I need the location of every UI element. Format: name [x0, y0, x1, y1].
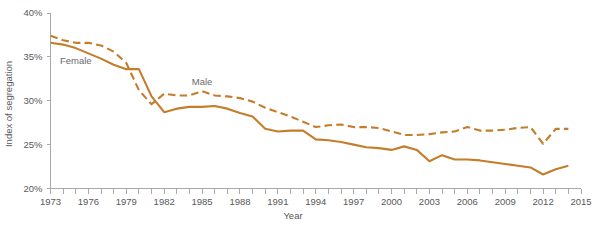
chart-container: 20%25%30%35%40% 197319761979198219851988… [0, 0, 592, 227]
data-series-group [51, 36, 569, 175]
series-label-male: Male [192, 76, 213, 87]
x-axis-tick-label: 1994 [305, 196, 326, 207]
x-axis-tick-label: 1988 [229, 196, 250, 207]
x-axis-tick-label: 2009 [495, 196, 516, 207]
segregation-index-line-chart: 20%25%30%35%40% 197319761979198219851988… [0, 0, 592, 227]
x-axis-tick-label: 1997 [343, 196, 364, 207]
y-axis-tick-label: 35% [23, 51, 43, 62]
x-axis-tick-label: 1976 [78, 196, 99, 207]
x-axis-tick-label: 1979 [116, 196, 137, 207]
x-axis-title: Year [283, 210, 302, 221]
x-axis: 1973197619791982198519881991199419972000… [40, 189, 592, 207]
series-line-female [51, 43, 569, 175]
series-label-female: Female [60, 55, 92, 66]
y-axis-tick-label: 20% [23, 183, 43, 194]
x-axis-tick-label: 1982 [154, 196, 175, 207]
y-axis: 20%25%30%35%40% [23, 7, 50, 194]
x-axis-tick-label: 2012 [533, 196, 554, 207]
x-axis-tick-label: 2003 [419, 196, 440, 207]
x-axis-tick-label: 1991 [267, 196, 288, 207]
series-line-male [51, 36, 569, 144]
y-axis-tick-label: 40% [23, 7, 43, 18]
x-axis-tick-label: 2000 [381, 196, 402, 207]
x-axis-tick-label: 1973 [40, 196, 61, 207]
series-annotations: MaleFemale [60, 55, 212, 87]
x-axis-tick-label: 2006 [457, 196, 478, 207]
y-axis-tick-label: 25% [23, 139, 43, 150]
x-axis-tick-label: 1985 [192, 196, 213, 207]
y-axis-title: Index of segregation [3, 61, 14, 147]
y-axis-tick-label: 30% [23, 95, 43, 106]
x-axis-tick-label: 2015 [570, 196, 591, 207]
